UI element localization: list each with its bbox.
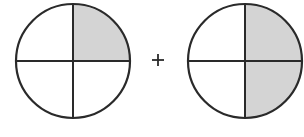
plus-sign <box>152 54 164 66</box>
right-circle <box>187 4 303 118</box>
left-circle <box>15 4 131 118</box>
fraction-diagram <box>0 0 304 137</box>
